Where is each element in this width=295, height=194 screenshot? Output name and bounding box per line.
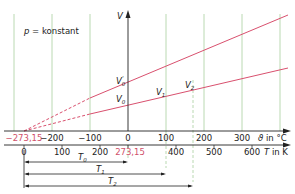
celsius-axis-label: ϑϑ in °C in °C <box>258 133 287 143</box>
celsius-tick: −200 <box>40 133 63 143</box>
kelvin-tick-t0: 273,15 <box>115 147 145 157</box>
kelvin-tick: 600 <box>244 147 260 157</box>
v-axis-label: V <box>117 11 124 21</box>
constant-pressure-label: p = konstant <box>23 26 79 36</box>
celsius-tick-abs-zero: −273,15 <box>6 133 43 143</box>
label-v0: V0 <box>116 94 126 105</box>
label-v1: V1 <box>156 87 165 98</box>
label-t1: T1 <box>96 164 105 175</box>
kelvin-axis-label: T in K <box>264 147 288 157</box>
kelvin-tick: 500 <box>206 147 222 157</box>
lower-line-extrapolated <box>24 114 90 131</box>
celsius-tick: −100 <box>78 133 101 143</box>
label-t2: T2 <box>108 176 117 187</box>
kelvin-tick: 200 <box>92 147 108 157</box>
celsius-tick: 100 <box>158 133 174 143</box>
v-axis-arrow-icon <box>126 10 131 18</box>
lower-line <box>90 68 288 114</box>
kelvin-tick: 400 <box>168 147 184 157</box>
kelvin-tick: 100 <box>54 147 70 157</box>
celsius-tick: 200 <box>196 133 212 143</box>
label-t0: T0 <box>78 152 87 163</box>
upper-line-extrapolated <box>24 98 90 131</box>
gay-lussac-diagram: V p = konstant V0' V0 V1 V2 −273,15 −200… <box>0 0 295 194</box>
celsius-tick: 0 <box>125 133 130 143</box>
label-v0-prime: V0' <box>116 75 126 87</box>
celsius-tick: 300 <box>234 133 250 143</box>
